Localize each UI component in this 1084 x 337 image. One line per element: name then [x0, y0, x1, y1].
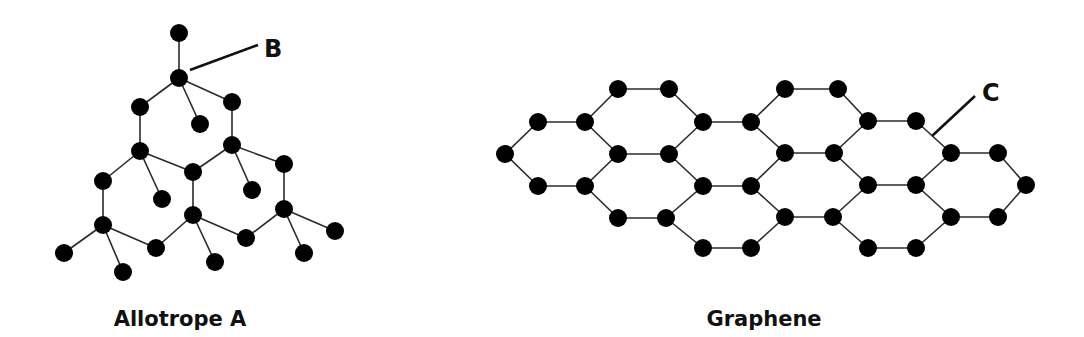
carbon-atom — [824, 208, 842, 226]
carbon-atom — [94, 216, 112, 234]
allotrope-a-atoms — [55, 24, 344, 281]
carbon-atom — [295, 244, 313, 262]
carbon-atom — [55, 244, 73, 262]
callout-label-b: B — [264, 35, 282, 63]
carbon-atom — [859, 176, 877, 194]
carbon-atom — [275, 200, 293, 218]
callout-line-c — [932, 96, 975, 136]
carbon-atom — [989, 208, 1007, 226]
carbon-atom — [184, 163, 202, 181]
carbon-atom — [170, 69, 188, 87]
carbon-atom — [825, 144, 843, 162]
carbon-atom — [1017, 176, 1035, 194]
carbon-atom — [609, 145, 627, 163]
caption-allotrope-a: Allotrope A — [114, 307, 247, 331]
carbon-atom — [576, 113, 594, 131]
carbon-atom — [657, 209, 675, 227]
carbon-atom — [206, 253, 224, 271]
carbon-atom — [170, 24, 188, 42]
carbon-atom — [907, 176, 925, 194]
carbon-atom — [496, 145, 514, 163]
carbon-atom — [694, 177, 712, 195]
graphene-atoms — [496, 80, 1035, 257]
carbon-atom — [609, 209, 627, 227]
carbon-atom — [694, 113, 712, 131]
carbon-atom — [153, 190, 171, 208]
carbon-atom — [191, 115, 209, 133]
carbon-atom — [829, 80, 847, 98]
carbon-atom — [942, 208, 960, 226]
carbon-atom — [147, 239, 165, 257]
carbon-atom — [660, 80, 678, 98]
carbon-atom — [576, 177, 594, 195]
carbon-atom — [131, 142, 149, 160]
carbon-atom — [237, 229, 255, 247]
carbon-atom — [776, 144, 794, 162]
carbon-atom — [529, 113, 547, 131]
carbon-atom — [742, 177, 760, 195]
carbon-atom — [223, 93, 241, 111]
carbon-atom — [859, 112, 877, 130]
carbon-atom — [223, 136, 241, 154]
caption-graphene: Graphene — [706, 307, 821, 331]
carbon-atom — [907, 112, 925, 130]
carbon-atom — [94, 172, 112, 190]
carbon-atom — [776, 80, 794, 98]
carbon-atom — [942, 144, 960, 162]
carbon-atom — [694, 239, 712, 257]
carbon-atom — [907, 239, 925, 257]
allotrope-a-bonds — [64, 33, 335, 272]
carbon-atom — [131, 98, 149, 116]
callout-line-b — [190, 45, 258, 70]
carbon-atom — [742, 239, 760, 257]
carbon-atom — [859, 239, 877, 257]
graphene-structure: C Graphene — [496, 79, 1035, 331]
allotrope-a-structure: B Allotrope A — [55, 24, 344, 331]
allotropes-diagram: B Allotrope A C Graphene — [0, 0, 1084, 337]
carbon-atom — [529, 177, 547, 195]
carbon-atom — [660, 145, 678, 163]
carbon-atom — [184, 206, 202, 224]
carbon-atom — [275, 155, 293, 173]
carbon-atom — [326, 222, 344, 240]
carbon-atom — [742, 113, 760, 131]
carbon-atom — [114, 263, 132, 281]
carbon-atom — [776, 208, 794, 226]
carbon-atom — [989, 144, 1007, 162]
carbon-atom — [609, 80, 627, 98]
callout-label-c: C — [982, 79, 1000, 107]
carbon-atom — [243, 181, 261, 199]
